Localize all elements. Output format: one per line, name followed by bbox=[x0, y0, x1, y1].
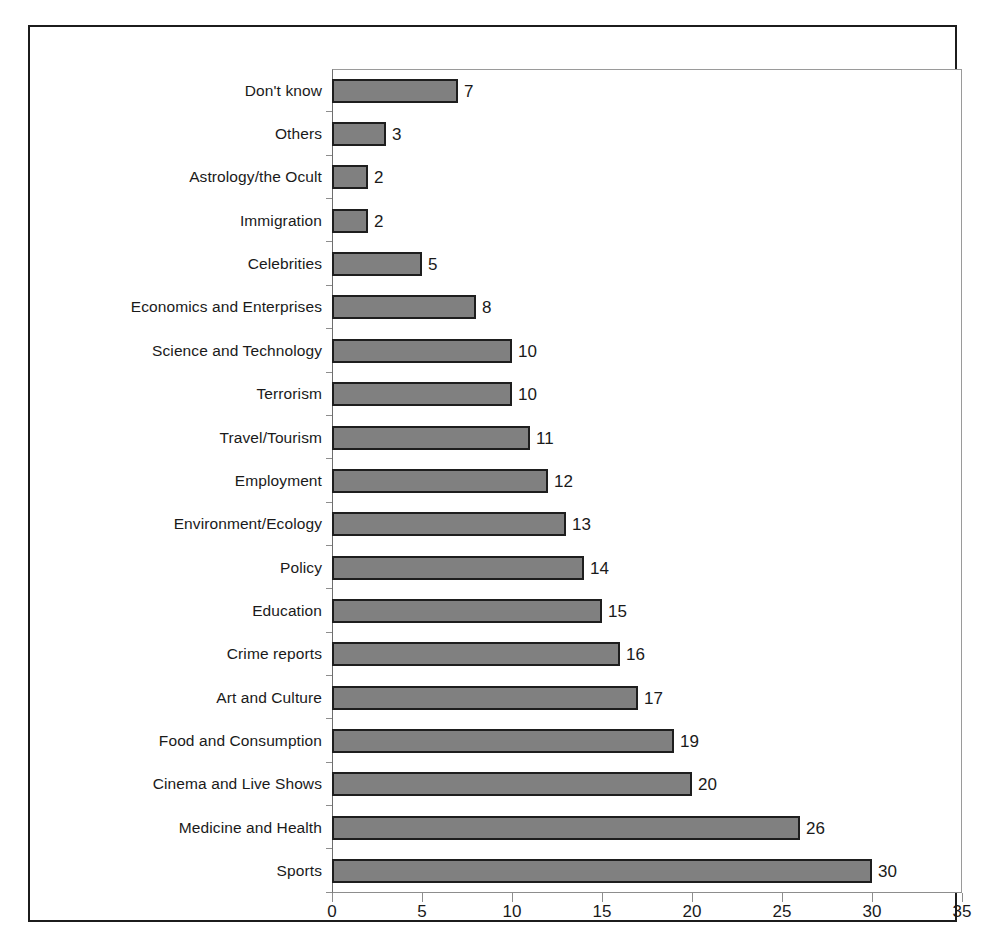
bar bbox=[332, 339, 512, 363]
bar bbox=[332, 686, 638, 710]
bar-value-label: 20 bbox=[692, 776, 717, 793]
bar-row: 20 bbox=[332, 763, 962, 806]
bar bbox=[332, 816, 800, 840]
x-axis-tick bbox=[782, 893, 783, 902]
x-axis-tick-label: 30 bbox=[863, 903, 882, 920]
category-label: Immigration bbox=[30, 199, 322, 242]
x-axis-tick bbox=[872, 893, 873, 902]
bar-value-label: 12 bbox=[548, 472, 573, 489]
category-label: Don't know bbox=[30, 69, 322, 112]
bar-value-label: 17 bbox=[638, 689, 663, 706]
bar bbox=[332, 642, 620, 666]
bar bbox=[332, 599, 602, 623]
bar bbox=[332, 729, 674, 753]
bar-value-label: 30 bbox=[872, 863, 897, 880]
bar-series: 73225810101112131415161719202630 bbox=[332, 69, 962, 893]
bar-value-label: 19 bbox=[674, 733, 699, 750]
bar-value-label: 14 bbox=[584, 559, 609, 576]
bar-value-label: 8 bbox=[476, 299, 491, 316]
bar-value-label: 5 bbox=[422, 256, 437, 273]
category-label: Food and Consumption bbox=[30, 719, 322, 762]
category-label: Astrology/the Ocult bbox=[30, 156, 322, 199]
bar-row: 19 bbox=[332, 719, 962, 762]
bar bbox=[332, 859, 872, 883]
chart-screenshot: Don't knowOthersAstrology/the OcultImmig… bbox=[0, 0, 981, 951]
bar-row: 10 bbox=[332, 329, 962, 372]
bar-row: 16 bbox=[332, 633, 962, 676]
bar-row: 5 bbox=[332, 242, 962, 285]
category-label: Crime reports bbox=[30, 633, 322, 676]
category-label: Art and Culture bbox=[30, 676, 322, 719]
bar-value-label: 2 bbox=[368, 169, 383, 186]
bar-value-label: 16 bbox=[620, 646, 645, 663]
bar bbox=[332, 426, 530, 450]
bar-value-label: 3 bbox=[386, 126, 401, 143]
x-axis-tick-label: 35 bbox=[953, 903, 972, 920]
bar-value-label: 13 bbox=[566, 516, 591, 533]
category-label: Science and Technology bbox=[30, 329, 322, 372]
bar bbox=[332, 79, 458, 103]
category-label: Sports bbox=[30, 849, 322, 892]
category-label: Medicine and Health bbox=[30, 806, 322, 849]
category-label: Employment bbox=[30, 459, 322, 502]
bar-row: 8 bbox=[332, 286, 962, 329]
bar-row: 10 bbox=[332, 373, 962, 416]
bar bbox=[332, 295, 476, 319]
category-label: Cinema and Live Shows bbox=[30, 763, 322, 806]
category-label: Terrorism bbox=[30, 373, 322, 416]
x-axis-tick bbox=[962, 893, 963, 902]
category-axis-labels: Don't knowOthersAstrology/the OcultImmig… bbox=[30, 69, 322, 893]
bar-row: 7 bbox=[332, 69, 962, 112]
x-axis-tick-label: 0 bbox=[327, 903, 336, 920]
category-label: Others bbox=[30, 112, 322, 155]
bar-row: 11 bbox=[332, 416, 962, 459]
category-label: Economics and Enterprises bbox=[30, 286, 322, 329]
x-axis-tick bbox=[602, 893, 603, 902]
bar-row: 12 bbox=[332, 459, 962, 502]
bar-row: 14 bbox=[332, 546, 962, 589]
x-axis-tick bbox=[692, 893, 693, 902]
bar bbox=[332, 252, 422, 276]
x-axis-tick-label: 25 bbox=[773, 903, 792, 920]
figure-frame: Don't knowOthersAstrology/the OcultImmig… bbox=[28, 25, 957, 922]
bar bbox=[332, 382, 512, 406]
bar-row: 15 bbox=[332, 589, 962, 632]
category-label: Education bbox=[30, 589, 322, 632]
bar bbox=[332, 469, 548, 493]
category-label: Travel/Tourism bbox=[30, 416, 322, 459]
category-label: Environment/Ecology bbox=[30, 503, 322, 546]
x-axis-tick-label: 10 bbox=[503, 903, 522, 920]
bar-value-label: 15 bbox=[602, 602, 627, 619]
bar bbox=[332, 772, 692, 796]
x-axis-tick bbox=[332, 893, 333, 902]
x-axis-tick bbox=[512, 893, 513, 902]
bar-value-label: 10 bbox=[512, 386, 537, 403]
bar-value-label: 7 bbox=[458, 82, 473, 99]
bar bbox=[332, 512, 566, 536]
category-label: Policy bbox=[30, 546, 322, 589]
x-axis-tick bbox=[422, 893, 423, 902]
bar-row: 26 bbox=[332, 806, 962, 849]
bar-value-label: 26 bbox=[800, 819, 825, 836]
bar-row: 3 bbox=[332, 112, 962, 155]
bar bbox=[332, 556, 584, 580]
bar-row: 13 bbox=[332, 503, 962, 546]
bar bbox=[332, 165, 368, 189]
category-label: Celebrities bbox=[30, 242, 322, 285]
bar-value-label: 10 bbox=[512, 342, 537, 359]
bar bbox=[332, 209, 368, 233]
bar-value-label: 2 bbox=[368, 212, 383, 229]
bar bbox=[332, 122, 386, 146]
x-axis-tick-label: 5 bbox=[417, 903, 426, 920]
bar-row: 2 bbox=[332, 156, 962, 199]
x-axis-tick-label: 15 bbox=[593, 903, 612, 920]
x-axis-tick-label: 20 bbox=[683, 903, 702, 920]
bar-value-label: 11 bbox=[530, 429, 554, 446]
bar-row: 17 bbox=[332, 676, 962, 719]
bar-row: 2 bbox=[332, 199, 962, 242]
x-axis-tick-labels: 05101520253035 bbox=[332, 903, 962, 931]
bar-row: 30 bbox=[332, 849, 962, 892]
